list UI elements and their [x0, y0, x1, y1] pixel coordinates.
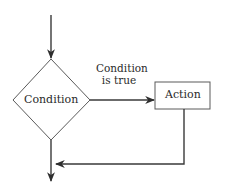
edge-label: Condition is true [96, 62, 142, 86]
flowchart-diagram: Condition Action Condition is true [0, 0, 226, 196]
condition-label: Condition [24, 93, 78, 106]
action-label: Action [165, 88, 201, 101]
edge-label-line2: is true [96, 74, 142, 86]
edge-label-line1: Condition [96, 62, 142, 74]
return-path [56, 109, 184, 164]
